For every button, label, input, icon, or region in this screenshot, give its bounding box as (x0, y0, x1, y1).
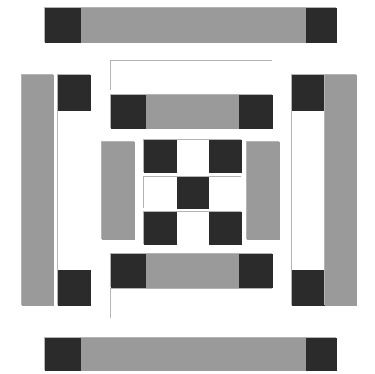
top-horizontal-bar-cap-right (306, 8, 337, 43)
top-white-panel (110, 60, 272, 90)
bottom-horizontal-bar-cap-right (306, 338, 337, 371)
checker-row-top-cell-3 (209, 140, 242, 173)
checker-row-middle (143, 176, 241, 208)
checker-row-bottom (143, 211, 241, 244)
top-horizontal-bar-cap-left (45, 8, 81, 43)
center-right-gray-bar (246, 141, 279, 239)
lower-inner-capped-bar-body (146, 254, 239, 288)
top-horizontal-bar (44, 7, 336, 42)
bottom-white-panel-body (111, 289, 273, 319)
checker-row-bottom-cell-3 (209, 212, 242, 245)
checker-row-bottom-cell-2 (177, 212, 209, 245)
upper-inner-capped-bar (110, 94, 272, 128)
checker-row-top (143, 139, 241, 172)
right-inner-capped-bar-cap-bottom (292, 270, 325, 306)
checker-row-middle-cell-1 (144, 177, 177, 209)
bottom-white-panel (110, 288, 272, 318)
checker-row-bottom-cell-1 (144, 212, 177, 245)
left-outer-gray-bar (21, 74, 53, 305)
left-inner-capped-bar-cap-bottom (58, 270, 91, 306)
checker-row-top-cell-1 (144, 140, 177, 173)
center-left-gray-bar-body (102, 142, 135, 240)
top-horizontal-bar-body (81, 8, 306, 43)
center-right-gray-bar-body (247, 142, 280, 240)
upper-inner-capped-bar-cap-right (239, 95, 273, 129)
right-inner-capped-bar-body (292, 111, 325, 270)
left-inner-capped-bar-cap-top (58, 75, 91, 111)
checker-row-top-cell-2 (177, 140, 209, 173)
left-inner-capped-bar-body (58, 111, 91, 270)
lower-inner-capped-bar-cap-left (111, 254, 146, 288)
left-inner-capped-bar (57, 74, 90, 305)
right-inner-capped-bar (291, 74, 324, 305)
checker-row-middle-cell-2 (177, 177, 209, 209)
center-left-gray-bar (101, 141, 134, 239)
bottom-horizontal-bar-body (81, 338, 306, 371)
lower-inner-capped-bar-cap-right (239, 254, 273, 288)
bottom-horizontal-bar-cap-left (45, 338, 81, 371)
right-outer-gray-bar (324, 74, 356, 305)
lower-inner-capped-bar (110, 253, 272, 287)
right-outer-gray-bar-body (325, 75, 357, 306)
checker-row-middle-cell-3 (209, 177, 242, 209)
upper-inner-capped-bar-cap-left (111, 95, 146, 129)
bottom-horizontal-bar (44, 337, 336, 370)
upper-inner-capped-bar-body (146, 95, 239, 129)
composition-canvas (0, 0, 375, 374)
right-inner-capped-bar-cap-top (292, 75, 325, 111)
top-white-panel-body (111, 61, 273, 91)
left-outer-gray-bar-body (22, 75, 54, 306)
